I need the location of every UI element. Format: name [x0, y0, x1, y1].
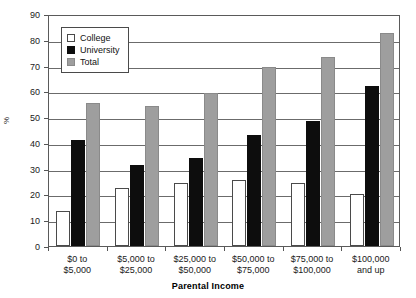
bar-total — [262, 67, 276, 246]
x-axis-category-label-line: $75,000 — [224, 265, 283, 276]
x-axis-category-label: $25,000 to$50,000 — [165, 254, 224, 276]
y-axis-tick-label: 0 — [18, 243, 40, 252]
x-axis-category-label-line: $25,000 to — [165, 254, 224, 265]
x-axis-category-label: $75,000 to$100,000 — [283, 254, 342, 276]
gridline — [49, 171, 399, 172]
legend-label-university: University — [80, 45, 120, 55]
plot-area: College University Total — [48, 15, 400, 247]
x-axis-tick-mark — [165, 247, 166, 251]
legend-swatch-college-icon — [67, 34, 75, 42]
x-axis-category-label-line: $75,000 to — [283, 254, 342, 265]
bar-college — [232, 180, 246, 246]
y-axis-tick-label: 90 — [18, 11, 40, 20]
y-axis-tick-label: 80 — [18, 37, 40, 46]
bar-college — [291, 183, 305, 246]
y-axis-tick-label: 60 — [18, 88, 40, 97]
bar-group — [232, 16, 276, 246]
x-axis-category-label-line: $5,000 to — [107, 254, 166, 265]
y-axis-tick-label: 70 — [18, 63, 40, 72]
bar-group — [174, 16, 218, 246]
bar-total — [321, 57, 335, 246]
bar-university — [189, 158, 203, 246]
x-axis-category-label-line: $50,000 to — [224, 254, 283, 265]
x-axis-category-label-line: $25,000 — [107, 265, 166, 276]
x-axis-tick-mark — [48, 247, 49, 251]
x-axis-category-label-line: $50,000 — [165, 265, 224, 276]
bar-university — [306, 121, 320, 246]
y-axis-tick-label: 30 — [18, 166, 40, 175]
bar-group — [291, 16, 335, 246]
y-axis-tick-label: 50 — [18, 114, 40, 123]
x-axis-tick-mark — [224, 247, 225, 251]
x-axis-category-label: $0 to$5,000 — [48, 254, 107, 276]
x-axis-category-label-line: $5,000 — [48, 265, 107, 276]
bar-total — [380, 33, 394, 246]
bar-university — [365, 86, 379, 246]
legend-item-total: Total — [67, 56, 120, 68]
x-axis-title: Parental Income — [0, 281, 416, 291]
x-axis-category-label: $50,000 to$75,000 — [224, 254, 283, 276]
x-axis-category-label-line: $100,000 — [283, 265, 342, 276]
bar-total — [86, 103, 100, 246]
y-axis-tick-label: 10 — [18, 217, 40, 226]
legend-swatch-university-icon — [67, 46, 75, 54]
x-axis-category-label-line: $0 to — [48, 254, 107, 265]
y-axis-tick-label: 40 — [18, 140, 40, 149]
x-axis-tick-mark — [107, 247, 108, 251]
gridline — [49, 222, 399, 223]
x-axis-category-label-line: and up — [341, 265, 400, 276]
bar-university — [130, 165, 144, 246]
gridline — [49, 119, 399, 120]
bar-college — [174, 183, 188, 246]
bar-total — [204, 93, 218, 246]
y-axis-tick-label: 20 — [18, 191, 40, 200]
legend-label-total: Total — [80, 57, 99, 67]
gridline — [49, 145, 399, 146]
y-axis-title: % — [2, 117, 11, 124]
bar-group — [350, 16, 394, 246]
x-axis-category-label-line: $100,000 — [341, 254, 400, 265]
bar-chart: % 0102030405060708090 College University… — [0, 0, 416, 298]
legend-item-university: University — [67, 44, 120, 56]
x-axis-tick-mark — [400, 247, 401, 251]
bar-college — [115, 188, 129, 246]
bar-college — [56, 211, 70, 246]
bar-university — [71, 140, 85, 246]
gridline — [49, 196, 399, 197]
chart-legend: College University Total — [61, 27, 129, 73]
x-axis-category-label: $5,000 to$25,000 — [107, 254, 166, 276]
x-axis-tick-mark — [341, 247, 342, 251]
legend-swatch-total-icon — [67, 58, 75, 66]
x-axis-category-label: $100,000and up — [341, 254, 400, 276]
bar-university — [247, 135, 261, 246]
bar-college — [350, 194, 364, 246]
legend-label-college: College — [80, 33, 111, 43]
legend-item-college: College — [67, 32, 120, 44]
bar-total — [145, 106, 159, 246]
gridline — [49, 93, 399, 94]
x-axis-tick-mark — [283, 247, 284, 251]
